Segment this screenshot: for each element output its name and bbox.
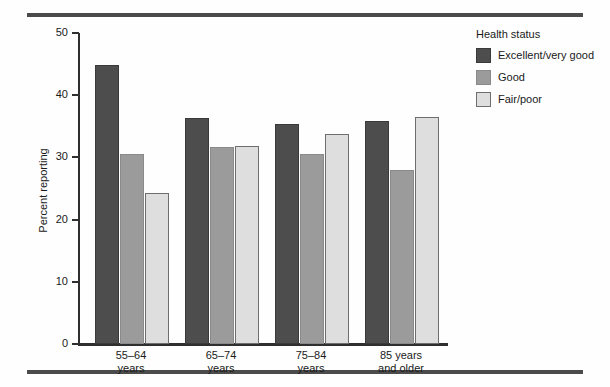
x-category-label: 85 yearsand older xyxy=(346,349,456,375)
legend-swatch-icon xyxy=(476,70,491,85)
bar xyxy=(325,134,349,344)
chart-legend: Health status Excellent/very goodGoodFai… xyxy=(476,28,606,110)
bar xyxy=(95,65,119,344)
bar-group xyxy=(95,33,169,344)
legend-item-label: Good xyxy=(498,71,525,83)
bar xyxy=(300,154,324,344)
bar xyxy=(210,147,234,344)
y-axis-title: Percent reporting xyxy=(38,126,49,256)
top-divider-rule xyxy=(27,13,583,17)
bar-group xyxy=(365,33,439,344)
legend-item[interactable]: Excellent/very good xyxy=(476,44,606,66)
bar xyxy=(145,193,169,344)
legend-swatch-icon xyxy=(476,92,491,107)
bar xyxy=(185,118,209,344)
y-tick-label: 0 xyxy=(38,338,68,349)
bar xyxy=(390,170,414,344)
bar xyxy=(235,146,259,344)
bar xyxy=(365,121,389,344)
chart-figure: 50403020100 Percent reporting 55–64years… xyxy=(0,0,610,387)
y-tick-label: 40 xyxy=(38,89,68,100)
legend-item[interactable]: Good xyxy=(476,66,606,88)
legend-item-label: Fair/poor xyxy=(498,93,542,105)
y-axis-title-wrapper: Percent reporting xyxy=(14,33,34,344)
legend-title: Health status xyxy=(476,28,606,40)
y-tick-label: 10 xyxy=(38,276,68,287)
x-category-label-line: and older xyxy=(346,362,456,375)
plot-area xyxy=(78,33,428,344)
legend-item-label: Excellent/very good xyxy=(498,49,594,61)
bar xyxy=(275,124,299,344)
legend-swatch-icon xyxy=(476,48,491,63)
bar xyxy=(120,154,144,344)
legend-items: Excellent/very goodGoodFair/poor xyxy=(476,44,606,110)
bar xyxy=(415,117,439,344)
legend-item[interactable]: Fair/poor xyxy=(476,88,606,110)
y-tick-label: 50 xyxy=(38,27,68,38)
bar-group xyxy=(185,33,259,344)
bar-group xyxy=(275,33,349,344)
x-category-label-line: 85 years xyxy=(346,349,456,362)
